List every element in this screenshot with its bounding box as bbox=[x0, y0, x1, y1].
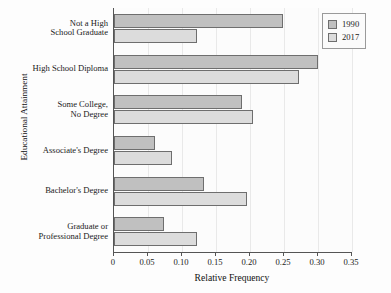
legend-label-1990: 1990 bbox=[342, 19, 359, 30]
bar-1990-cat-0 bbox=[114, 14, 283, 28]
gridline bbox=[148, 8, 149, 252]
gridline bbox=[284, 8, 285, 252]
x-axis-tick-mark bbox=[351, 252, 352, 256]
bar-2017-cat-1 bbox=[114, 70, 299, 84]
x-axis-tick-mark bbox=[317, 252, 318, 256]
legend-label-2017: 2017 bbox=[342, 32, 359, 43]
x-axis-tick-mark bbox=[181, 252, 182, 256]
relative-frequency-bar-chart: Educational Attainment Not a High School… bbox=[0, 0, 391, 293]
bar-2017-cat-5 bbox=[114, 232, 197, 246]
legend-item-1990[interactable]: 1990 bbox=[328, 18, 359, 31]
bar-2017-cat-0 bbox=[114, 29, 197, 43]
legend-item-2017[interactable]: 2017 bbox=[328, 31, 359, 44]
plot-area bbox=[113, 8, 352, 253]
gridline bbox=[182, 8, 183, 252]
x-axis-tick-mark bbox=[283, 252, 284, 256]
legend-swatch-1990-icon bbox=[328, 20, 337, 29]
y-axis-category-label: Associate's Degree bbox=[4, 146, 108, 156]
legend[interactable]: 1990 2017 bbox=[322, 13, 366, 49]
y-axis-category-label: Not a High School Graduate bbox=[4, 19, 108, 38]
legend-swatch-2017-icon bbox=[328, 33, 337, 42]
x-axis-tick-mark bbox=[113, 252, 114, 256]
bar-1990-cat-3 bbox=[114, 136, 155, 150]
x-axis-title: Relative Frequency bbox=[113, 272, 351, 283]
bar-1990-cat-4 bbox=[114, 177, 204, 191]
bar-2017-cat-4 bbox=[114, 192, 247, 206]
x-axis-tick-mark bbox=[215, 252, 216, 256]
y-axis-category-label: High School Diploma bbox=[4, 64, 108, 74]
bar-1990-cat-2 bbox=[114, 95, 242, 109]
bar-2017-cat-3 bbox=[114, 151, 172, 165]
y-axis-category-label: Some College, No Degree bbox=[4, 100, 108, 119]
y-axis-category-label: Graduate or Professional Degree bbox=[4, 222, 108, 241]
x-axis-tick-label: 0.35 bbox=[331, 257, 371, 267]
y-axis-category-labels: Not a High School GraduateHigh School Di… bbox=[0, 8, 108, 252]
y-axis-category-label: Bachelor's Degree bbox=[4, 186, 108, 196]
bar-2017-cat-2 bbox=[114, 110, 253, 124]
x-axis-tick-mark bbox=[249, 252, 250, 256]
bar-1990-cat-1 bbox=[114, 55, 318, 69]
x-axis-tick-mark bbox=[147, 252, 148, 256]
bar-1990-cat-5 bbox=[114, 217, 164, 231]
gridline bbox=[318, 8, 319, 252]
gridline bbox=[250, 8, 251, 252]
gridline bbox=[216, 8, 217, 252]
